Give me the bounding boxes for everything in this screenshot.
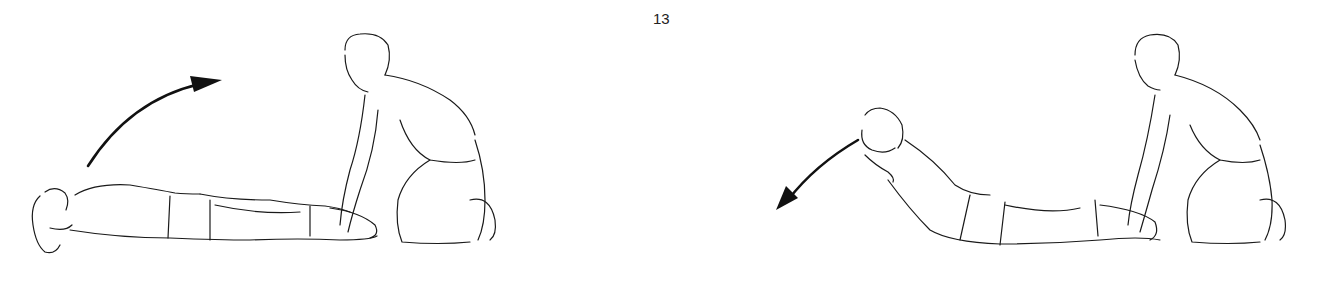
arrow-up-right-icon [88,84,200,166]
kneeling-helper [1128,34,1285,243]
kneeling-helper [340,34,495,244]
illustration-prone-lift-raised [760,0,1343,281]
arrow-down-left-icon [788,140,858,200]
illustration-prone-lift-start [0,0,560,281]
raised-person [862,108,1160,245]
line-drawing-right [760,0,1343,281]
page-number: 13 [653,10,670,27]
arrowhead-icon [190,76,222,92]
lying-person [32,185,377,253]
line-drawing-left [0,0,560,281]
arrowhead-icon [776,186,798,210]
